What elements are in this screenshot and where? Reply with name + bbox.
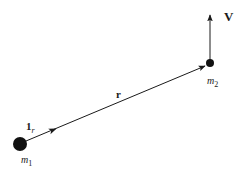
unit-vector-arrowhead — [48, 126, 58, 135]
v-label: V — [224, 9, 234, 24]
m1-label: m1 — [21, 154, 32, 168]
m1-label-main: m — [21, 154, 28, 165]
m2-label-main: m — [207, 75, 214, 86]
m2-label-sub: 2 — [214, 80, 218, 89]
unit-vector-label: 1r — [26, 120, 36, 135]
m1-label-sub: 1 — [28, 159, 32, 168]
mass-m2 — [206, 59, 214, 67]
two-body-diagram: V m2 r 1r m1 — [0, 0, 241, 173]
m2-label: m2 — [207, 75, 218, 89]
unit-vector-sub: r — [32, 126, 36, 135]
r-label: r — [116, 88, 121, 100]
mass-m1 — [13, 137, 27, 151]
